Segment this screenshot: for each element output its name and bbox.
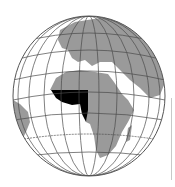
edge-line [171, 98, 172, 180]
globe-map [0, 0, 175, 187]
